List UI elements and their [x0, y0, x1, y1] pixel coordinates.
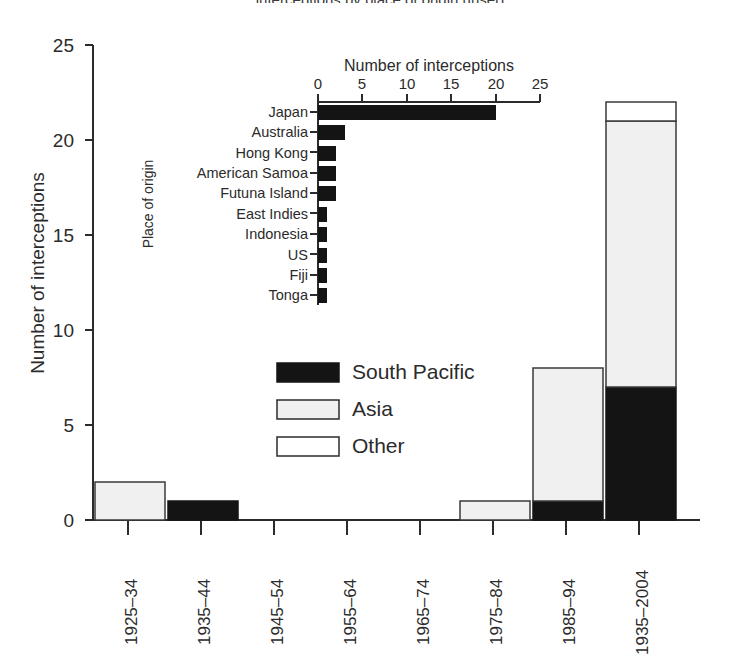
main-y-ticks [85, 45, 93, 520]
inset-chart [310, 94, 540, 305]
main-y-tick-label-20: 20 [32, 130, 74, 152]
main-x-tick-label-1975-84: 1975–84 [487, 579, 507, 645]
main-x-tick-label-1945-54: 1945–54 [268, 579, 288, 645]
inset-category-label-japan: Japan [148, 104, 308, 120]
main-y-axis-title: Number of interceptions [27, 143, 49, 403]
inset-y-ticks [310, 112, 318, 295]
bar-segment-other [606, 102, 676, 121]
inset-category-label-indonesia: Indonesia [148, 226, 308, 242]
main-x-tick-label-1925-34: 1925–34 [122, 579, 142, 645]
bar-segment-asia [606, 121, 676, 387]
main-x-ticks [128, 520, 639, 535]
inset-category-label-tonga: Tonga [148, 287, 308, 303]
inset-bar-japan [318, 105, 496, 120]
bar-group-1925-34 [95, 482, 165, 520]
main-y-tick-label-5: 5 [32, 415, 74, 437]
main-x-tick-label-1955-64: 1955–64 [341, 579, 361, 645]
inset-x-tick-label-5: 5 [345, 75, 379, 92]
bar-group-1975-84 [460, 501, 530, 520]
inset-bar-hong-kong [318, 146, 336, 161]
bar-segment-south-pacific [533, 501, 603, 520]
inset-category-label-american-samoa: American Samoa [148, 165, 308, 181]
inset-bar-futuna-island [318, 186, 336, 201]
inset-x-axis-title: Number of interceptions [268, 57, 590, 75]
bar-segment-asia [95, 482, 165, 520]
chart-canvas [0, 0, 750, 657]
legend-label-south-pacific: South Pacific [352, 360, 475, 384]
inset-x-tick-label-0: 0 [301, 75, 335, 92]
top-caption: interceptions by place of origin (inset) [120, 0, 640, 3]
main-x-tick-label-1965-74: 1965–74 [414, 579, 434, 645]
main-x-tick-label-1985-94: 1985–94 [560, 579, 580, 645]
inset-bar-tonga [318, 288, 327, 303]
inset-x-tick-label-20: 20 [479, 75, 513, 92]
main-x-tick-label-1935-44: 1935–44 [195, 579, 215, 645]
main-y-tick-label-10: 10 [32, 320, 74, 342]
bar-segment-asia [533, 368, 603, 501]
inset-bar-fiji [318, 268, 327, 283]
inset-x-tick-label-10: 10 [390, 75, 424, 92]
bar-segment-asia [460, 501, 530, 520]
inset-y-axis-title: Place of origin [140, 144, 156, 264]
inset-bar-australia [318, 125, 345, 140]
inset-bar-american-samoa [318, 166, 336, 181]
inset-x-ticks [318, 94, 540, 102]
inset-x-tick-label-25: 25 [523, 75, 557, 92]
legend-label-asia: Asia [352, 397, 393, 421]
legend-swatch-other [277, 437, 339, 456]
bar-group-1935-44 [168, 501, 238, 520]
inset-bar-east-indies [318, 207, 327, 222]
inset-x-tick-label-15: 15 [434, 75, 468, 92]
bar-segment-south-pacific [168, 501, 238, 520]
legend-swatch-asia [277, 400, 339, 419]
legend-label-other: Other [352, 434, 405, 458]
main-y-tick-label-15: 15 [32, 225, 74, 247]
inset-category-label-australia: Australia [148, 124, 308, 140]
figure-container: interceptions by place of origin (inset) [0, 0, 750, 657]
main-x-tick-label-1935-2004: 1935–2004 [633, 570, 653, 655]
inset-category-label-fiji: Fiji [148, 267, 308, 283]
bar-group-1935-2004 [606, 102, 676, 520]
main-y-tick-label-25: 25 [32, 35, 74, 57]
inset-bar-indonesia [318, 227, 327, 242]
main-y-tick-label-0: 0 [32, 510, 74, 532]
bar-group-1985-94 [533, 368, 603, 520]
legend-swatch-south-pacific [277, 363, 339, 382]
inset-category-label-east-indies: East Indies [148, 206, 308, 222]
inset-bar-us [318, 248, 327, 263]
legend-swatches [277, 363, 339, 456]
inset-category-label-us: US [148, 247, 308, 263]
inset-category-label-hong-kong: Hong Kong [148, 145, 308, 161]
bar-segment-south-pacific [606, 387, 676, 520]
inset-category-label-futuna-island: Futuna Island [148, 185, 308, 201]
